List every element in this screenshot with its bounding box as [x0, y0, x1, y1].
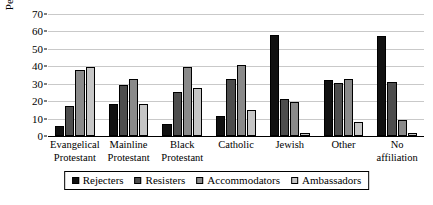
legend-label: Resisters: [146, 173, 186, 187]
y-tick-mark: [44, 14, 47, 15]
bar: [344, 79, 353, 136]
x-axis-label-line: Mainline: [103, 139, 155, 152]
y-tick-label: 20: [19, 96, 43, 107]
bar: [334, 83, 343, 136]
bar-group-bars: [370, 14, 424, 136]
legend-swatch-icon: [291, 177, 298, 184]
x-axis-label: Jewish: [263, 139, 317, 164]
legend-label: Ambassadors: [302, 173, 361, 187]
y-tick-label: 10: [19, 113, 43, 124]
x-axis-label-line: Protestant: [49, 152, 101, 165]
bar: [55, 126, 64, 136]
x-axis-label: MainlineProtestant: [102, 139, 156, 164]
legend-item[interactable]: Accommodators: [196, 173, 280, 187]
y-tick-mark: [44, 31, 47, 32]
bar: [139, 104, 148, 136]
x-axis-label-line: Other: [318, 139, 370, 152]
bar-group: [317, 14, 371, 136]
bar: [408, 133, 417, 136]
y-tick-mark: [44, 101, 47, 102]
x-axis-label-line: Catholic: [210, 139, 262, 152]
bar: [354, 122, 363, 136]
bar: [387, 82, 396, 136]
bar: [129, 79, 138, 137]
x-axis-label: Noaffiliation: [370, 139, 424, 164]
legend-label: Accommodators: [207, 173, 280, 187]
y-tick-label: 0: [19, 131, 43, 142]
y-tick-mark: [44, 136, 47, 137]
plot-area: 010203040506070: [48, 14, 424, 136]
bar: [86, 67, 95, 136]
legend: RejectersResistersAccommodatorsAmbassado…: [64, 171, 370, 190]
y-tick-mark: [44, 83, 47, 84]
x-axis-label-line: Evangelical: [49, 139, 101, 152]
bar: [119, 85, 128, 136]
x-axis-labels: EvangelicalProtestantMainlineProtestantB…: [48, 139, 424, 164]
bar: [109, 104, 118, 136]
x-axis-label-line: Jewish: [264, 139, 316, 152]
legend-item[interactable]: Ambassadors: [291, 173, 361, 187]
bar: [247, 110, 256, 136]
y-tick-label: 50: [19, 43, 43, 54]
x-axis-label: BlackProtestant: [155, 139, 209, 164]
x-axis-label: EvangelicalProtestant: [48, 139, 102, 164]
bar: [162, 124, 171, 136]
bar-group-bars: [263, 14, 317, 136]
bar: [377, 36, 386, 136]
bar: [237, 65, 246, 136]
x-axis-label: Catholic: [209, 139, 263, 164]
bar-chart: Percent 010203040506070 EvangelicalProte…: [0, 0, 433, 205]
x-axis-label-line: Protestant: [103, 152, 155, 165]
bar-groups: [48, 14, 424, 136]
bar-group-bars: [48, 14, 102, 136]
bar-group-bars: [155, 14, 209, 136]
bar: [280, 99, 289, 136]
bar: [290, 102, 299, 136]
y-tick-label: 70: [19, 9, 43, 20]
bar-group-bars: [102, 14, 156, 136]
legend-swatch-icon: [135, 177, 142, 184]
bar-group: [155, 14, 209, 136]
bar-group-bars: [209, 14, 263, 136]
bar: [398, 120, 407, 136]
bar: [193, 88, 202, 136]
bar: [75, 70, 84, 136]
bar: [216, 116, 225, 136]
y-tick-mark: [44, 66, 47, 67]
legend-swatch-icon: [72, 177, 79, 184]
bar-group: [102, 14, 156, 136]
legend-label: Rejecters: [83, 173, 124, 187]
x-axis-label-line: No: [371, 139, 423, 152]
y-tick-label: 60: [19, 26, 43, 37]
axis-baseline: [48, 136, 424, 137]
bar-group: [263, 14, 317, 136]
legend-item[interactable]: Resisters: [135, 173, 186, 187]
y-tick-label: 40: [19, 61, 43, 72]
x-axis-label: Other: [317, 139, 371, 164]
bar-group-bars: [317, 14, 371, 136]
bar: [270, 35, 279, 136]
bar-group: [370, 14, 424, 136]
y-axis-title: Percent: [2, 0, 16, 40]
x-axis-label-line: affiliation: [371, 152, 423, 165]
y-tick-mark: [44, 48, 47, 49]
bar-group: [48, 14, 102, 136]
bar: [173, 92, 182, 136]
bar: [324, 80, 333, 136]
legend-swatch-icon: [196, 177, 203, 184]
y-tick-label: 30: [19, 78, 43, 89]
bar: [183, 67, 192, 136]
x-axis-label-line: Black: [156, 139, 208, 152]
legend-item[interactable]: Rejecters: [72, 173, 124, 187]
bar: [300, 133, 309, 136]
x-axis-label-line: Protestant: [156, 152, 208, 165]
bar: [65, 106, 74, 136]
bar-group: [209, 14, 263, 136]
y-tick-mark: [44, 118, 47, 119]
bar: [226, 79, 235, 136]
